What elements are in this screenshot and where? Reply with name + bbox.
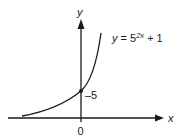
equation-base: = 5 xyxy=(118,32,137,44)
intercept-label: –5 xyxy=(85,89,97,101)
y-axis-label: y xyxy=(76,6,84,18)
x-axis-arrow-icon xyxy=(155,115,164,122)
y-axis xyxy=(78,19,85,122)
x-axis-label: x xyxy=(167,112,174,124)
exponential-curve xyxy=(22,33,101,116)
exponential-graph-figure: y x 0 –5 y = 52x + 1 xyxy=(0,0,179,139)
y-axis-arrow-icon xyxy=(78,19,85,29)
origin-label: 0 xyxy=(78,125,84,137)
equation-tail: + 1 xyxy=(144,32,163,44)
y-intercept-point xyxy=(79,89,83,93)
x-axis xyxy=(8,115,164,122)
equation-exponent: 2x xyxy=(135,31,144,40)
curve-equation: y = 52x + 1 xyxy=(111,31,163,44)
